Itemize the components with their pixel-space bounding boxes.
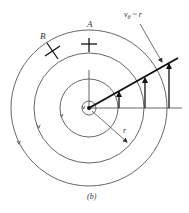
velocity-law-label: vθ ~ r: [124, 11, 142, 20]
velocity-label-leader: [140, 24, 162, 62]
cross-b: [45, 43, 60, 59]
velocity-profile-line: [89, 58, 178, 108]
center-dot: [87, 106, 91, 110]
velocity-law-rest: ~ r: [131, 10, 142, 19]
figure-caption: (b): [87, 193, 96, 201]
flow-direction-arrow-inner: [60, 114, 63, 117]
vortex-diagram: [0, 0, 189, 213]
label-a: A: [87, 20, 93, 29]
label-b: B: [40, 32, 46, 41]
cross-a: [81, 38, 97, 52]
radius-dimension: [92, 111, 127, 142]
radius-label: r: [123, 127, 126, 135]
